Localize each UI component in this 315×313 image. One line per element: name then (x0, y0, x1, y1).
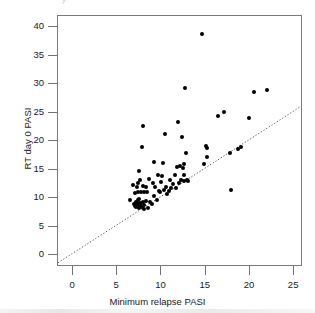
data-point (216, 114, 220, 118)
data-point (205, 155, 209, 159)
y-tick-label: 30 (4, 78, 44, 88)
data-point (202, 162, 206, 166)
data-point (151, 181, 155, 185)
data-point (229, 188, 233, 192)
data-point (252, 90, 256, 94)
data-point (167, 189, 171, 193)
data-point (159, 180, 163, 184)
x-tick-label: 25 (273, 279, 313, 290)
data-point (145, 190, 149, 194)
y-tick-label: 25 (4, 107, 44, 117)
y-tick-label: 20 (4, 135, 44, 145)
data-point (128, 198, 132, 202)
data-point (140, 145, 144, 149)
data-point (247, 116, 251, 120)
data-point (158, 190, 162, 194)
data-point (155, 198, 159, 202)
data-point (173, 173, 177, 177)
x-tick-mark (293, 266, 294, 275)
data-point (138, 178, 142, 182)
data-point (222, 110, 226, 114)
data-point (160, 174, 164, 178)
data-point (205, 146, 209, 150)
y-tick-mark (48, 83, 57, 84)
data-point (180, 135, 184, 139)
data-point (181, 166, 185, 170)
data-point (200, 32, 204, 36)
data-point (182, 173, 186, 177)
data-point (176, 120, 180, 124)
data-point (183, 86, 187, 90)
data-point (150, 202, 154, 206)
y-tick-mark (48, 226, 57, 227)
data-point (146, 206, 150, 210)
x-axis-title: Minimum relapse PASI (0, 296, 315, 307)
data-point (239, 145, 243, 149)
data-point (144, 185, 148, 189)
x-tick-label: 5 (96, 279, 136, 290)
plot-area (58, 16, 301, 265)
y-tick-mark (48, 55, 57, 56)
y-tick-mark (48, 112, 57, 113)
y-tick-label: 5 (4, 221, 44, 231)
x-tick-mark (116, 266, 117, 275)
data-point (147, 177, 151, 181)
data-point (174, 186, 178, 190)
data-point (182, 162, 186, 166)
data-point (265, 88, 269, 92)
data-point (156, 173, 160, 177)
y-tick-mark (48, 254, 57, 255)
scatter-plot-figure: y RT day 0 PASI 0510152025303540 0510152… (0, 0, 315, 313)
data-point (169, 186, 173, 190)
y-tick-label: 10 (4, 192, 44, 202)
y-tick-mark (48, 197, 57, 198)
x-tick-label: 20 (229, 279, 269, 290)
identity-reference-line (58, 16, 301, 265)
x-tick-mark (205, 266, 206, 275)
data-point (141, 124, 145, 128)
x-tick-mark (249, 266, 250, 275)
scan-artifact-text: y (62, 0, 122, 6)
y-tick-label: 15 (4, 164, 44, 174)
y-tick-label: 35 (4, 50, 44, 60)
data-point (186, 179, 190, 183)
y-tick-mark (48, 140, 57, 141)
data-point (164, 185, 168, 189)
scan-noise-band (0, 309, 315, 313)
data-point (161, 161, 165, 165)
x-tick-mark (72, 266, 73, 275)
x-tick-label: 0 (52, 279, 92, 290)
y-tick-mark (48, 26, 57, 27)
data-point (228, 151, 232, 155)
data-point (163, 132, 167, 136)
x-tick-label: 15 (185, 279, 225, 290)
y-tick-label: 40 (4, 21, 44, 31)
data-point (177, 181, 181, 185)
data-point (137, 169, 141, 173)
data-point (152, 160, 156, 164)
x-tick-mark (160, 266, 161, 275)
plot-frame (57, 15, 302, 266)
data-point (135, 185, 139, 189)
data-point (184, 151, 188, 155)
y-tick-label: 0 (4, 249, 44, 259)
x-tick-label: 10 (140, 279, 180, 290)
y-tick-mark (48, 169, 57, 170)
